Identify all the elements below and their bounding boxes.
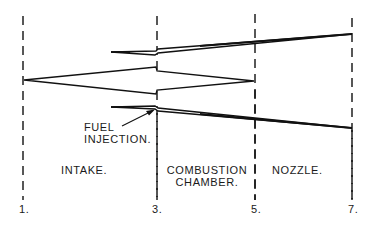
section-label-intake: INTAKE.	[61, 164, 107, 176]
combustion-line2: CHAMBER.	[166, 176, 248, 188]
fuel-injection-line1: FUEL	[84, 121, 151, 133]
station-label-7: 7.	[348, 203, 358, 215]
fuel-injection-label: FUEL INJECTION.	[84, 121, 151, 145]
station-label-3: 3.	[152, 203, 162, 215]
section-label-nozzle: NOZZLE.	[272, 164, 323, 176]
center-body	[24, 67, 254, 94]
section-label-combustion-chamber: COMBUSTION CHAMBER.	[166, 164, 248, 188]
station-label-1: 1.	[19, 203, 29, 215]
diagram-drawing	[0, 0, 374, 227]
station-label-5: 5.	[251, 203, 261, 215]
combustion-line1: COMBUSTION	[166, 164, 248, 176]
fuel-injection-line2: INJECTION.	[84, 133, 151, 145]
ramjet-diagram: FUEL INJECTION. INTAKE. COMBUSTION CHAMB…	[0, 0, 374, 227]
